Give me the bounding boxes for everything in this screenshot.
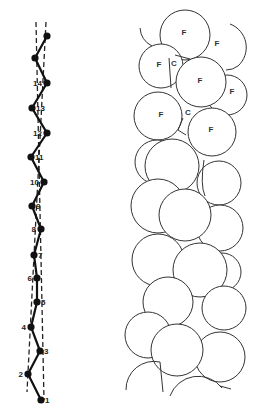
circle (159, 189, 211, 241)
backbone-node (27, 323, 34, 330)
node-label: 3 (44, 347, 49, 356)
label-f: F (215, 39, 220, 48)
label-f: F (198, 76, 203, 85)
backbone-node (43, 129, 50, 136)
node-label: 14 (33, 79, 42, 88)
backbone-node (28, 104, 35, 111)
label-c: C (185, 108, 191, 117)
node-label: 9 (36, 202, 41, 211)
label-f: F (159, 110, 164, 119)
backbone-node (43, 79, 50, 86)
backbone-node (37, 225, 44, 232)
backbone-node (33, 298, 40, 305)
backbone-node (31, 54, 38, 61)
backbone-node (24, 370, 31, 377)
backbone-node (36, 347, 43, 354)
label-c: C (171, 59, 177, 68)
circle-packing (125, 10, 247, 396)
label-f: F (209, 125, 214, 134)
backbone-node (33, 274, 40, 281)
node-label: 7 (38, 251, 43, 260)
node-label: 8 (32, 225, 37, 234)
label-f: F (182, 28, 187, 37)
node-label: 11 (35, 153, 44, 162)
backbone-node (43, 32, 50, 39)
node-label: 5 (41, 298, 46, 307)
circle (151, 324, 203, 376)
node-label: 13 (36, 104, 45, 113)
circle (202, 286, 246, 330)
node-label: 1 (45, 396, 50, 405)
circle-arc (140, 28, 152, 46)
node-label: 2 (19, 370, 24, 379)
backbone-node (40, 178, 47, 185)
node-label: 6 (28, 274, 33, 283)
backbone-node (28, 202, 35, 209)
backbone-node (30, 251, 37, 258)
node-label: 10 (30, 178, 39, 187)
backbone-nodes: 1234567891011121314 (19, 32, 51, 405)
node-label: 4 (22, 323, 27, 332)
backbone-node (27, 153, 34, 160)
circle-f (226, 24, 246, 70)
label-f: F (230, 87, 235, 96)
helix-figure: 1234567891011121314 FFFCFFFCF (0, 0, 259, 417)
backbone-node (37, 396, 44, 403)
node-label: 12 (33, 129, 42, 138)
label-f: F (157, 60, 162, 69)
